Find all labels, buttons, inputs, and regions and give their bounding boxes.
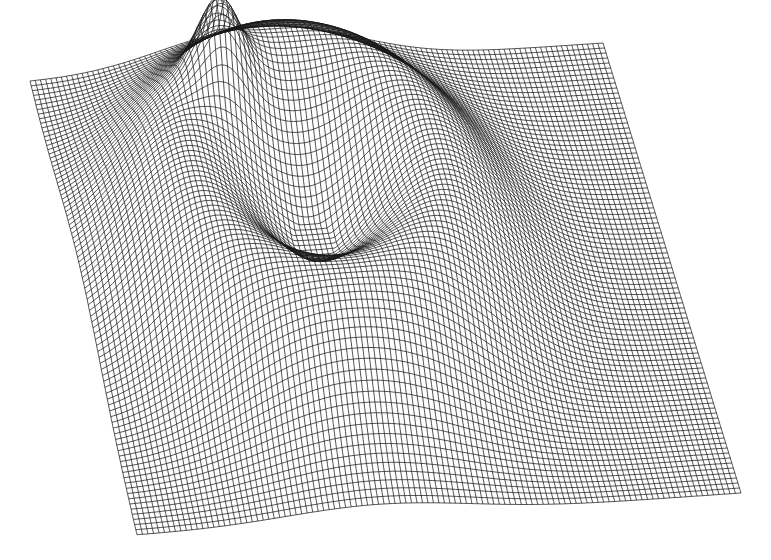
mesh-lines	[30, 0, 741, 535]
surface-plot	[0, 0, 771, 560]
wireframe-mesh	[30, 0, 741, 535]
